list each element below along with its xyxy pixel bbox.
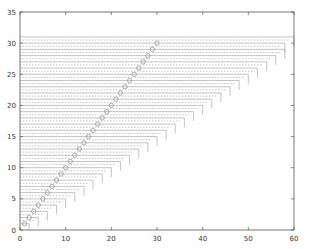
x-tick-label: 30 [153,235,162,243]
y-tick-label: 20 [7,102,16,110]
staircase-lines [20,37,294,230]
y-axis: 05101520253035 [7,9,294,235]
x-tick-label: 20 [107,235,116,243]
y-tick-label: 15 [7,133,16,141]
staircase-chart: 0102030405060 05101520253035 [0,0,310,249]
circle-markers [22,41,159,226]
x-tick-label: 60 [290,235,299,243]
y-tick-label: 35 [7,9,16,17]
y-tick-label: 0 [12,227,16,235]
y-tick-label: 25 [7,71,16,79]
y-tick-label: 10 [7,164,16,172]
x-tick-label: 0 [18,235,22,243]
y-tick-label: 30 [7,40,16,48]
x-tick-label: 50 [244,235,253,243]
y-tick-label: 5 [12,195,16,203]
x-tick-label: 10 [61,235,70,243]
x-tick-label: 40 [198,235,207,243]
plot-frame [20,12,294,230]
